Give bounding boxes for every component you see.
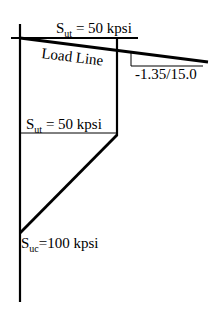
slope-label: -1.35/15.0	[135, 66, 197, 82]
failure-envelope-diagram: Sut = 50 kpsi Load Line -1.35/15.0 Sut =…	[0, 0, 220, 316]
sut-top-label: Sut = 50 kpsi	[56, 20, 132, 39]
suc-label: Suc=100 kpsi	[21, 235, 99, 254]
sut-mid-label: Sut = 50 kpsi	[26, 116, 102, 135]
compression-envelope-line	[20, 135, 117, 233]
